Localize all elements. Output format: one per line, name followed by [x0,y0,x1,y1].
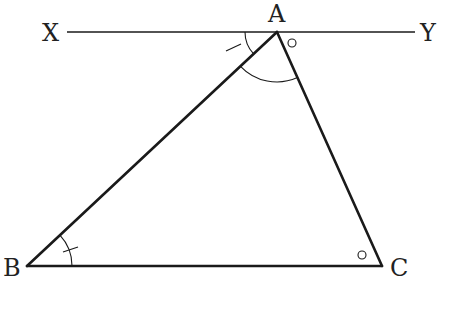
angle-xab-tick-mark [226,44,241,51]
label-x: X [42,19,59,47]
angle-acb-circle-mark [358,251,366,259]
label-b: B [3,254,21,282]
label-y: Y [419,19,437,47]
triangle-diagram: X Y A B C [0,0,460,316]
angle-cay-circle-mark [288,39,296,47]
label-a: A [267,0,286,28]
angle-abc-tick-mark [63,247,78,252]
angle-bac-arc [241,66,298,82]
side-ac [277,32,382,266]
label-c: C [390,254,408,282]
side-ab [27,32,277,266]
angle-xab-arc [245,32,254,54]
